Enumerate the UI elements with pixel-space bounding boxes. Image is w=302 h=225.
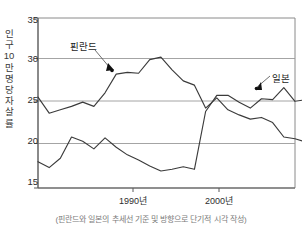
data-line-japan [38,88,302,171]
y-tick-label-15: 15 [18,176,38,187]
leader-line-japan [256,76,270,88]
x-tick-label-1990: 1990년 [119,194,147,207]
y-tick-label-20: 20 [18,135,38,146]
series-label-finland: 핀란드 [70,39,97,53]
leader-dot-finland [110,69,114,73]
plot-area [0,0,302,225]
data-line-finland [38,57,302,142]
x-tick-label-2000: 2000년 [205,194,233,207]
series-label-japan: 일본 [272,71,290,85]
suicide-rate-line-chart: 인구 10 만 명 당 자 살 률 35 30 25 20 15 1990년 2… [0,0,302,225]
figure-caption: (핀란드와 일본의 추세선 기준 및 방향으로 단기적 시각 작성) [0,213,302,224]
y-tick-label-group: 35 30 25 20 15 [14,0,38,225]
y-tick-label-35: 35 [18,14,38,25]
y-tick-label-30: 30 [18,53,38,64]
y-tick-label-25: 25 [18,94,38,105]
leader-dot-japan [255,87,259,91]
